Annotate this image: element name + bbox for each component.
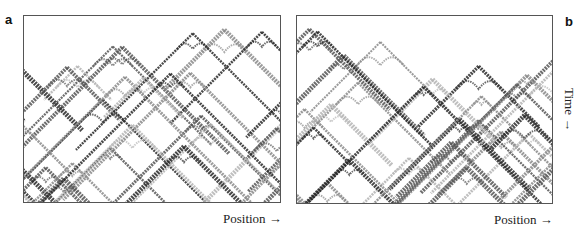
panel-b-y-axis-label: Time → <box>561 88 577 131</box>
panel-b-spacetime-diagram <box>296 15 553 204</box>
panel-a-x-axis-label: Position → <box>223 211 282 227</box>
automaton-pattern-a <box>24 16 280 202</box>
panel-a-label: a <box>5 12 12 27</box>
automaton-pattern-b <box>297 16 552 203</box>
panel-a-spacetime-diagram <box>23 15 281 203</box>
panel-b-x-axis-label: Position → <box>494 212 553 228</box>
panel-b-label: b <box>565 14 573 29</box>
